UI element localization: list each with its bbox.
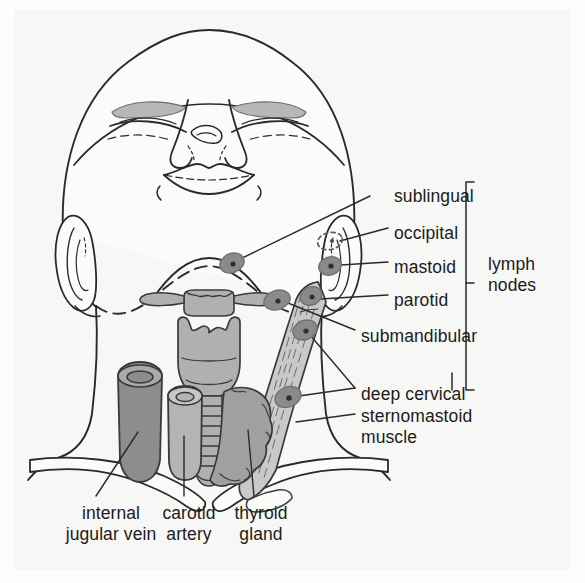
label-parotid: parotid — [394, 290, 448, 311]
label-lymph-nodes-line1: lymph — [488, 254, 536, 275]
label-thyroid-line2: gland — [226, 524, 296, 545]
label-lymph-nodes-group: lymph nodes — [488, 254, 536, 295]
thyroid-cartilage — [178, 317, 240, 396]
label-sternomastoid-line1: sternomastoid — [361, 406, 472, 427]
leader-deep-cervical-2 — [299, 388, 355, 396]
label-thyroid-line1: thyroid — [226, 503, 296, 524]
label-internal-jugular-vein: internal jugular vein — [58, 503, 164, 544]
label-occipital: occipital — [394, 223, 458, 244]
label-internal-jugular-line2: jugular vein — [58, 524, 164, 545]
label-sternomastoid-line2: muscle — [361, 427, 472, 448]
figure-page: sublingual occipital mastoid parotid sub… — [0, 0, 585, 583]
internal-jugular-vein — [118, 362, 162, 482]
label-submandibular: submandibular — [361, 326, 477, 347]
lymph-nodes-bracket — [466, 182, 474, 390]
label-mastoid: mastoid — [394, 257, 456, 278]
label-lymph-nodes-line2: nodes — [488, 275, 536, 296]
label-carotid-line2: artery — [153, 524, 225, 545]
label-thyroid-gland: thyroid gland — [226, 503, 296, 544]
label-carotid-line1: carotid — [153, 503, 225, 524]
hyoid-bone — [140, 290, 278, 316]
label-sternomastoid-muscle: sternomastoid muscle — [361, 406, 472, 447]
label-deep-cervical: deep cervical — [361, 384, 465, 405]
label-carotid-artery: carotid artery — [153, 503, 225, 544]
carotid-artery — [168, 386, 202, 480]
label-sublingual: sublingual — [394, 186, 474, 207]
leader-deep-cervical-1 — [310, 335, 355, 388]
label-internal-jugular-line1: internal — [58, 503, 164, 524]
